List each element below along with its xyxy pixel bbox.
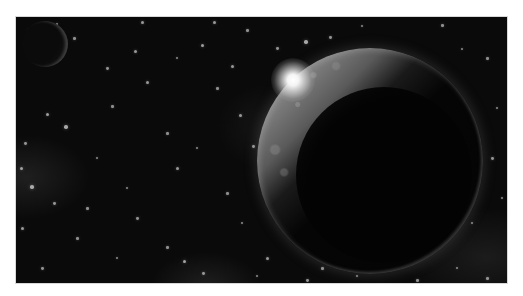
star <box>202 272 205 275</box>
star <box>486 277 489 280</box>
star <box>134 50 137 53</box>
star <box>441 24 444 27</box>
star <box>216 87 219 90</box>
star <box>266 257 269 260</box>
star <box>246 29 249 32</box>
star <box>329 36 332 39</box>
star <box>106 67 109 70</box>
star <box>416 279 419 282</box>
star <box>53 202 56 205</box>
star <box>306 279 309 282</box>
star <box>146 81 149 84</box>
star <box>21 227 24 230</box>
star <box>86 207 89 210</box>
star <box>252 145 255 148</box>
star <box>64 125 68 129</box>
star <box>226 192 229 195</box>
star <box>491 157 494 160</box>
star <box>304 40 308 44</box>
star <box>76 237 79 240</box>
star <box>136 217 139 220</box>
star <box>41 267 44 270</box>
star <box>239 114 242 117</box>
star <box>166 132 169 135</box>
star <box>30 185 34 189</box>
star <box>141 21 144 24</box>
star <box>321 267 324 270</box>
star <box>231 65 234 68</box>
star <box>213 21 216 24</box>
small-moon <box>22 21 68 67</box>
space-scene-image <box>16 17 507 283</box>
star <box>24 142 27 145</box>
star <box>276 47 279 50</box>
sun-flare <box>271 58 315 102</box>
star <box>111 105 114 108</box>
star <box>166 246 169 249</box>
star <box>176 167 179 170</box>
star <box>73 37 76 40</box>
star <box>486 57 489 60</box>
